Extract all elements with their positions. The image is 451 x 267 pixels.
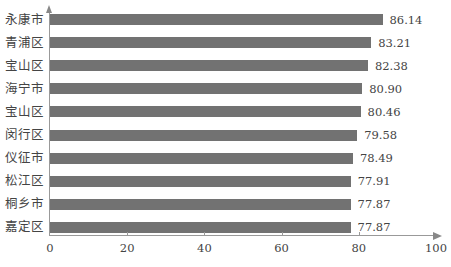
category-label: 宝山区 <box>0 105 44 119</box>
x-tick-mark <box>359 232 360 236</box>
bar <box>50 83 362 94</box>
value-label: 80.90 <box>369 83 402 95</box>
x-tick-label: 60 <box>274 241 289 255</box>
category-label: 嘉定区 <box>0 220 44 234</box>
category-label: 松江区 <box>0 174 44 188</box>
value-label: 86.14 <box>390 14 423 26</box>
x-tick-label: 80 <box>351 241 366 255</box>
x-tick-mark <box>204 232 205 236</box>
bar <box>50 176 351 187</box>
value-label: 77.87 <box>358 221 391 233</box>
value-label: 80.46 <box>368 106 401 118</box>
bar <box>50 199 351 210</box>
x-tick-mark <box>282 232 283 236</box>
x-tick-label: 20 <box>120 241 135 255</box>
category-label: 闵行区 <box>0 128 44 142</box>
bar <box>50 130 357 141</box>
x-axis-arrow-icon <box>433 232 442 240</box>
value-label: 78.49 <box>360 152 393 164</box>
x-tick-label: 100 <box>425 241 447 255</box>
category-label: 仪征市 <box>0 151 44 165</box>
bar <box>50 222 351 233</box>
category-label: 桐乡市 <box>0 197 44 211</box>
bar <box>50 106 361 117</box>
bar <box>50 153 353 164</box>
category-label: 海宁市 <box>0 82 44 96</box>
x-axis-line <box>49 235 436 236</box>
bar <box>50 60 368 71</box>
y-axis-arrow-icon <box>46 5 52 13</box>
category-label: 永康市 <box>0 13 44 27</box>
x-tick-label: 0 <box>46 241 53 255</box>
bar <box>50 14 383 25</box>
category-label: 青浦区 <box>0 36 44 50</box>
value-label: 83.21 <box>378 37 411 49</box>
value-label: 82.38 <box>375 60 408 72</box>
value-label: 77.87 <box>358 198 391 210</box>
value-label: 77.91 <box>358 175 391 187</box>
bar <box>50 37 371 48</box>
horizontal-bar-chart: 永康市86.14青浦区83.21宝山区82.38海宁市80.90宝山区80.46… <box>0 0 451 267</box>
category-label: 宝山区 <box>0 59 44 73</box>
value-label: 79.58 <box>364 129 397 141</box>
x-tick-mark <box>127 232 128 236</box>
x-tick-label: 40 <box>197 241 212 255</box>
